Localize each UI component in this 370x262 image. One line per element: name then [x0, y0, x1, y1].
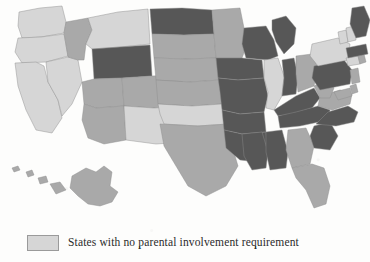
- state-nj: [350, 68, 360, 84]
- state-hi: [50, 182, 66, 194]
- state-il: [264, 58, 284, 110]
- state-ia: [216, 58, 264, 80]
- states-layer: [12, 6, 370, 208]
- state-ak: [70, 166, 118, 206]
- state-az: [82, 104, 126, 144]
- legend-label-clipped-half: States with no parental involvement requ…: [0, 246, 370, 262]
- state-sd: [152, 34, 216, 59]
- state-ks: [156, 80, 222, 106]
- legend-label-descenders: States with no parental involvement requ…: [68, 246, 299, 248]
- state-nd: [150, 8, 214, 35]
- state-ut: [82, 78, 124, 108]
- state-mt: [86, 9, 150, 49]
- state-sc: [310, 122, 338, 150]
- state-hi: [12, 166, 20, 172]
- us-choropleth-figure: States with no parental involvement requ…: [0, 0, 370, 262]
- state-mo: [218, 78, 268, 114]
- state-wa: [18, 6, 66, 38]
- state-id: [64, 18, 92, 60]
- state-hi: [26, 170, 34, 177]
- state-ok: [158, 104, 228, 126]
- legend: States with no parental involvement requ…: [0, 232, 370, 262]
- state-ga: [286, 128, 314, 168]
- state-mn: [212, 8, 248, 58]
- state-hi: [38, 176, 48, 184]
- state-al: [266, 130, 288, 170]
- us-map: [0, 0, 370, 232]
- state-ar: [222, 110, 266, 134]
- state-fl: [292, 164, 330, 208]
- state-ne: [154, 58, 220, 82]
- state-in: [282, 58, 298, 96]
- state-wy: [92, 45, 152, 79]
